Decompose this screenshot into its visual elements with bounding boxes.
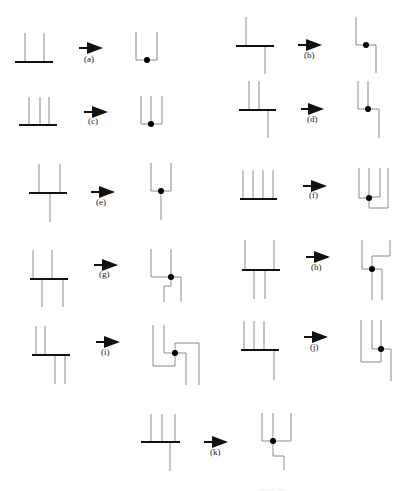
vertex-diagram-j bbox=[241, 321, 279, 380]
vertex-diagram-k bbox=[141, 414, 180, 471]
diagram-figure: (a) (b) (c) bbox=[0, 0, 408, 491]
result-graph-b bbox=[356, 17, 376, 73]
panel-c: (c) bbox=[19, 96, 162, 127]
caption-partial: ... ... ... bbox=[260, 482, 285, 491]
result-graph-c bbox=[141, 96, 162, 127]
node-dot bbox=[365, 106, 371, 112]
node-dot bbox=[172, 350, 178, 356]
panel-h: (h) bbox=[242, 240, 390, 300]
vertex-diagram-i bbox=[32, 326, 70, 384]
node-dot bbox=[168, 274, 174, 280]
result-graph-k bbox=[262, 413, 291, 470]
node-dot bbox=[369, 266, 375, 272]
panel-label-j: (j) bbox=[310, 342, 319, 352]
panel-label-g: (g) bbox=[99, 269, 110, 279]
node-dot bbox=[158, 188, 164, 194]
vertex-diagram-b bbox=[236, 17, 274, 74]
node-dot bbox=[270, 438, 276, 444]
panel-label-a: (a) bbox=[84, 54, 94, 64]
result-graph-g bbox=[151, 249, 181, 302]
result-graph-e bbox=[151, 163, 171, 220]
node-dot bbox=[144, 57, 150, 63]
node-dot bbox=[148, 121, 154, 127]
vertex-diagram-e bbox=[29, 164, 67, 222]
panel-label-h: (h) bbox=[311, 262, 322, 272]
panel-i: (i) bbox=[32, 325, 199, 385]
node-dot bbox=[363, 42, 369, 48]
vertex-diagram-f bbox=[240, 170, 277, 199]
vertex-diagram-h bbox=[242, 240, 280, 299]
result-graph-j bbox=[361, 320, 391, 381]
panel-label-f: (f) bbox=[309, 190, 318, 200]
panel-b: (b) bbox=[236, 17, 376, 74]
panel-f: (f) bbox=[240, 168, 388, 208]
node-dot bbox=[366, 195, 372, 201]
vertex-diagram-c bbox=[19, 97, 57, 125]
panel-label-i: (i) bbox=[101, 347, 110, 357]
panel-d: (d) bbox=[239, 81, 379, 138]
panel-a: (a) bbox=[15, 32, 157, 64]
node-dot bbox=[378, 346, 384, 352]
panel-label-k: (k) bbox=[210, 447, 221, 457]
panel-label-d: (d) bbox=[307, 114, 318, 124]
panel-label-b: (b) bbox=[304, 50, 315, 60]
vertex-diagram-g bbox=[30, 250, 68, 307]
panel-g: (g) bbox=[30, 249, 181, 307]
result-graph-f bbox=[359, 168, 388, 208]
result-graph-d bbox=[358, 81, 379, 138]
vertex-diagram-a bbox=[15, 33, 53, 62]
vertex-diagram-d bbox=[239, 81, 276, 138]
panel-label-c: (c) bbox=[88, 116, 98, 126]
panel-label-e: (e) bbox=[96, 197, 106, 207]
panel-e: (e) bbox=[29, 163, 171, 222]
result-graph-h bbox=[362, 240, 390, 300]
panel-k: (k) bbox=[141, 413, 291, 471]
result-graph-i bbox=[153, 325, 199, 385]
result-graph-a bbox=[136, 32, 157, 63]
panel-j: (j) bbox=[241, 320, 391, 381]
